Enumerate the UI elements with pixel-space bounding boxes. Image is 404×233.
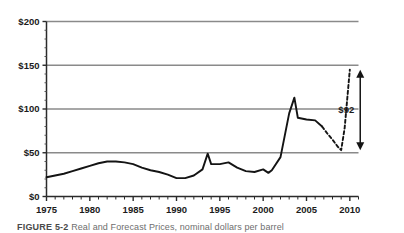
y-tick-label: $50 [24,147,40,158]
data-series-group [47,70,350,179]
line-chart: $92 $0$50$100$150$200 197519801985199019… [0,0,404,233]
y-tick-label: $150 [18,60,39,71]
x-tick-label: 1980 [79,204,100,215]
x-tick-label: 1975 [36,204,58,215]
tick-marks-group [43,22,359,202]
figure-caption: FIGURE 5-2 Real and Forecast Prices, nom… [0,222,404,233]
caption-body: Real and Forecast Prices, nominal dollar… [71,222,284,232]
x-tick-label: 2005 [296,204,318,215]
figure-container: $92 $0$50$100$150$200 197519801985199019… [0,0,404,233]
x-tick-label: 1995 [209,204,231,215]
x-tick-label: 2010 [339,204,360,215]
y-axis-tick-labels: $0$50$100$150$200 [18,16,39,202]
x-axis-tick-labels: 19751980198519901995200020052010 [36,204,360,215]
caption-label: FIGURE 5-2 [17,222,69,232]
arrow-head-up-icon [356,70,364,78]
y-tick-label: $100 [18,103,39,114]
series-line-historical [47,98,323,179]
x-tick-label: 1985 [123,204,145,215]
gridlines-group [47,22,359,153]
caption-line: FIGURE 5-2 Real and Forecast Prices, nom… [17,222,284,232]
y-tick-label: $0 [29,191,40,202]
arrow-head-down-icon [356,142,364,150]
x-tick-label: 2000 [253,204,274,215]
delta-value-label: $92 [338,104,354,115]
x-tick-label: 1990 [166,204,187,215]
y-tick-label: $200 [18,16,39,27]
